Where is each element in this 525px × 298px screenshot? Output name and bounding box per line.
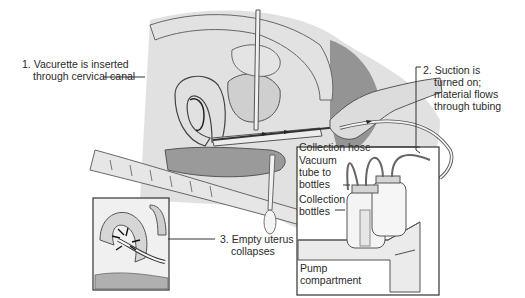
label-collection-hose: Collection hose: [299, 141, 371, 153]
label-step-3: 3. Empty uterus collapses: [220, 233, 294, 257]
label-step-2: 2. Suction is turned on; material flows …: [423, 64, 501, 112]
inset-empty-uterus: [93, 198, 169, 290]
label-pump-compartment: Pump compartment: [300, 262, 361, 286]
label-step-1: 1. Vacurette is inserted through cervica…: [22, 58, 135, 82]
rectum: [165, 147, 285, 177]
label-vacuum-tube: Vacuum tube to bottles: [299, 154, 337, 190]
label-collection-bottles: Collection bottles: [299, 193, 345, 217]
